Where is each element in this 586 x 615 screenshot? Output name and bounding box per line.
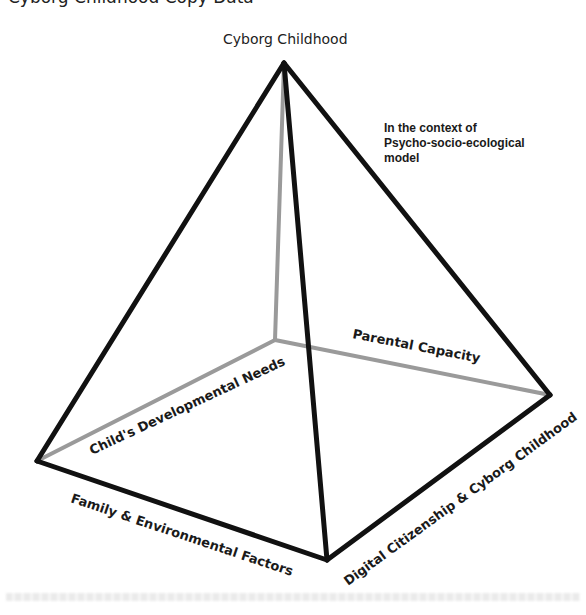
- apex-label: Cyborg Childhood: [223, 31, 348, 47]
- label-child-developmental-needs: Child's Developmental Needs: [87, 354, 288, 458]
- edge-apex-back: [275, 63, 284, 340]
- label-digital-citizenship-cyborg-childhood: Digital Citizenship & Cyborg Childhood: [341, 409, 580, 588]
- label-family-environmental-factors: Family & Environmental Factors: [69, 491, 295, 579]
- illegible-caption: [6, 593, 580, 601]
- edge-apex-front: [284, 63, 327, 560]
- edge-left-front: [37, 461, 327, 560]
- context-note-line-2: Psycho-socio-ecological: [384, 136, 554, 151]
- pyramid-diagram: Cyborg Childhood Child's Developmental N…: [0, 0, 586, 615]
- context-note-line-1: In the context of: [384, 121, 554, 136]
- edge-apex-left: [37, 63, 284, 461]
- context-note-line-3: model: [384, 151, 554, 166]
- context-note: In the context of Psycho-socio-ecologica…: [384, 121, 554, 166]
- edge-front-right: [327, 395, 550, 560]
